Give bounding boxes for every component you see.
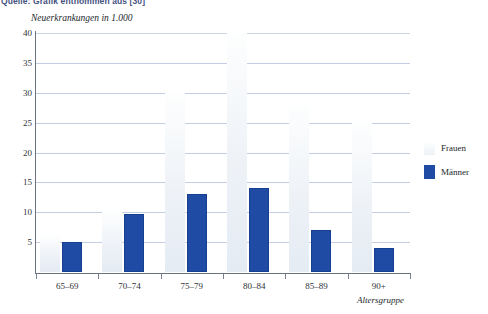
- bar-frauen-70–74: [102, 212, 122, 272]
- x-tick: [348, 274, 349, 279]
- bar-group: [98, 33, 160, 272]
- x-tick-label-85–89: 85–89: [282, 281, 352, 291]
- bar-frauen-90+: [352, 123, 372, 272]
- x-tick: [410, 274, 411, 279]
- frauen-swatch-icon: [424, 141, 435, 155]
- x-tick-label-90+: 90+: [344, 281, 414, 291]
- y-tick-label-5: 5: [4, 237, 32, 247]
- y-axis-tick-labels: 510152025303540: [0, 0, 32, 314]
- x-tick-label-65–69: 65–69: [32, 281, 102, 291]
- x-tick-label-70–74: 70–74: [95, 281, 165, 291]
- y-tick-label-35: 35: [4, 58, 32, 68]
- bar-männer-65–69: [62, 242, 82, 272]
- x-tick-origin: [36, 274, 37, 279]
- bar-frauen-75–79: [165, 93, 185, 272]
- legend-item-frauen[interactable]: Frauen: [424, 139, 488, 157]
- x-axis-title: Altersgruppe: [357, 295, 404, 305]
- y-tick-label-10: 10: [4, 207, 32, 217]
- bar-group: [285, 33, 347, 272]
- y-tick-label-25: 25: [4, 118, 32, 128]
- bar-frauen-80–84: [227, 33, 247, 272]
- legend-item-männer[interactable]: Männer: [424, 163, 488, 181]
- y-tick-label-20: 20: [4, 148, 32, 158]
- bar-group: [223, 33, 285, 272]
- chart-legend: FrauenMänner: [424, 139, 488, 187]
- maenner-swatch-icon: [424, 165, 435, 179]
- y-tick-label-30: 30: [4, 88, 32, 98]
- y-tick-label-15: 15: [4, 177, 32, 187]
- bar-männer-80–84: [249, 188, 269, 272]
- legend-label: Frauen: [441, 143, 466, 153]
- bar-männer-85–89: [311, 230, 331, 272]
- x-tick-label-80–84: 80–84: [219, 281, 289, 291]
- x-tick: [223, 274, 224, 279]
- bar-frauen-65–69: [40, 236, 60, 272]
- x-tick: [285, 274, 286, 279]
- y-tick-label-40: 40: [4, 28, 32, 38]
- bar-group: [161, 33, 223, 272]
- x-tick-label-75–79: 75–79: [157, 281, 227, 291]
- x-tick: [161, 274, 162, 279]
- bar-männer-90+: [374, 248, 394, 272]
- legend-label: Männer: [441, 167, 469, 177]
- x-tick: [98, 274, 99, 279]
- bar-frauen-85–89: [289, 105, 309, 272]
- bar-group: [36, 33, 98, 272]
- bar-group: [348, 33, 410, 272]
- bar-männer-70–74: [124, 214, 144, 272]
- y-axis-title: Neuerkrankungen in 1.000: [31, 13, 133, 23]
- bars-layer: [36, 33, 410, 272]
- bar-männer-75–79: [187, 194, 207, 272]
